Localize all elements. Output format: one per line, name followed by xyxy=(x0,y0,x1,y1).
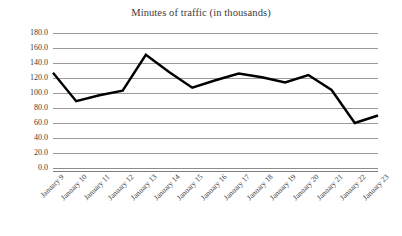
y-tick-label: 180.0 xyxy=(0,29,48,37)
chart-title: Minutes of traffic (in thousands) xyxy=(0,7,402,18)
line-chart: Minutes of traffic (in thousands) 180.01… xyxy=(0,0,402,236)
series-line-traffic xyxy=(53,33,378,168)
y-tick-label: 0.0 xyxy=(0,164,48,172)
plot-area xyxy=(53,33,378,168)
x-tick-label: January 23 xyxy=(343,173,391,221)
y-tick-label: 120.0 xyxy=(0,74,48,82)
x-axis: January 9January 10January 11January 12J… xyxy=(53,173,378,235)
x-axis-line xyxy=(53,171,378,172)
y-axis: 180.0160.0140.0120.0100.080.060.040.020.… xyxy=(0,33,48,168)
y-tick-label: 40.0 xyxy=(0,134,48,142)
y-tick-label: 140.0 xyxy=(0,59,48,67)
y-tick-label: 80.0 xyxy=(0,104,48,112)
y-tick-label: 60.0 xyxy=(0,119,48,127)
y-tick-label: 160.0 xyxy=(0,44,48,52)
y-tick-label: 100.0 xyxy=(0,89,48,97)
y-tick-label: 20.0 xyxy=(0,149,48,157)
